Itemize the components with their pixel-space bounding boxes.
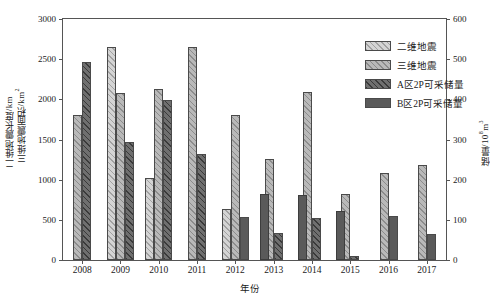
x-tick — [389, 260, 390, 264]
bar-group: 2009 — [102, 19, 138, 260]
legend-swatch-hatch-light — [365, 41, 391, 51]
x-tick-label: 2014 — [302, 265, 321, 275]
legend-label: A区2P可采储量 — [397, 77, 464, 91]
y-tick-label-left: 0 — [52, 255, 57, 265]
bar-B区2P可采储量 — [336, 211, 345, 260]
y-axis-right-exponent: 8 — [478, 131, 484, 134]
legend-item: B区2P可采储量 — [365, 96, 464, 110]
x-tick — [197, 260, 198, 264]
bar-二维地震 — [222, 209, 231, 260]
y-axis-right-title: 储量/108m3 — [478, 120, 491, 166]
bar-A区2P可采储量 — [312, 218, 321, 260]
legend-item: 二维地震 — [365, 39, 464, 53]
y-tick-label-left: 3000 — [38, 14, 56, 24]
legend-label: 三维地震 — [397, 58, 437, 72]
bar-group: 2014 — [294, 19, 330, 260]
bar-B区2P可采储量 — [427, 234, 436, 260]
y-axis-right-unit-exponent: 3 — [478, 120, 484, 123]
bar-三维地震 — [154, 89, 163, 260]
bar-group: 2015 — [332, 19, 368, 260]
y-tick-left — [59, 59, 63, 60]
y-tick-right — [446, 260, 450, 261]
x-tick — [274, 260, 275, 264]
x-tick — [350, 260, 351, 264]
y-tick-right — [446, 140, 450, 141]
x-tick-label: 2013 — [264, 265, 283, 275]
x-tick-label: 2011 — [188, 265, 207, 275]
y-tick-label-right: 600 — [453, 14, 467, 24]
bar-A区2P可采储量 — [197, 154, 206, 260]
bar-group: 2011 — [179, 19, 215, 260]
plot-area: 2008200920102011201220132014201520162017… — [62, 18, 447, 261]
x-tick-label: 2015 — [341, 265, 360, 275]
y-tick-label-right: 200 — [453, 175, 467, 185]
y-tick-left — [59, 19, 63, 20]
bar-三维地震 — [231, 115, 240, 260]
legend-label: B区2P可采储量 — [397, 96, 463, 110]
bar-A区2P可采储量 — [163, 100, 172, 260]
bar-A区2P可采储量 — [350, 256, 359, 260]
bar-B区2P可采储量 — [260, 194, 269, 260]
y-tick-left — [59, 180, 63, 181]
legend-swatch-hatch-medium — [365, 60, 391, 70]
y-tick-label-right: 300 — [453, 135, 467, 145]
bar-三维地震 — [418, 165, 427, 260]
y-tick-right — [446, 220, 450, 221]
y-tick-label-left: 2500 — [38, 54, 56, 64]
bar-group: 2012 — [217, 19, 253, 260]
chart-root: 二维地震长度/km 三维地震面积/km2 储量/108m3 年份 2008200… — [0, 0, 500, 299]
x-tick — [312, 260, 313, 264]
x-tick-label: 2010 — [149, 265, 168, 275]
y-tick-label-left: 500 — [43, 215, 57, 225]
legend-label: 二维地震 — [397, 39, 437, 53]
y-tick-label-left: 2000 — [38, 94, 56, 104]
x-tick-label: 2008 — [73, 265, 92, 275]
bar-三维地震 — [73, 115, 82, 260]
y-tick-right — [446, 19, 450, 20]
y-tick-label-left: 1000 — [38, 175, 56, 185]
y-tick-label-right: 0 — [453, 255, 458, 265]
y-axis-left-exponent: 2 — [14, 88, 20, 91]
bar-A区2P可采储量 — [274, 233, 283, 260]
legend: 二维地震三维地震A区2P可采储量B区2P可采储量 — [365, 39, 464, 110]
bar-二维地震 — [145, 178, 154, 260]
x-tick — [82, 260, 83, 264]
y-tick-left — [59, 140, 63, 141]
x-tick-label: 2016 — [379, 265, 398, 275]
y-tick-left — [59, 99, 63, 100]
bar-group: 2008 — [64, 19, 100, 260]
legend-item: 三维地震 — [365, 58, 464, 72]
bar-group: 2013 — [256, 19, 292, 260]
x-tick-label: 2012 — [226, 265, 245, 275]
y-tick-label-right: 100 — [453, 215, 467, 225]
x-tick-label: 2017 — [417, 265, 436, 275]
legend-swatch-hatch-dark — [365, 79, 391, 89]
x-tick — [120, 260, 121, 264]
x-tick — [427, 260, 428, 264]
bar-A区2P可采储量 — [82, 62, 91, 260]
bar-A区2P可采储量 — [125, 142, 134, 260]
x-tick-label: 2009 — [111, 265, 130, 275]
y-tick-left — [59, 260, 63, 261]
bar-三维地震 — [380, 173, 389, 260]
x-tick — [159, 260, 160, 264]
legend-swatch-solid-dark — [365, 98, 391, 108]
bar-B区2P可采储量 — [298, 195, 307, 260]
bar-二维地震 — [107, 47, 116, 260]
bar-B区2P可采储量 — [389, 216, 398, 260]
bar-group: 2010 — [141, 19, 177, 260]
y-tick-label-left: 1500 — [38, 135, 56, 145]
y-tick-left — [59, 220, 63, 221]
x-tick — [235, 260, 236, 264]
y-tick-right — [446, 180, 450, 181]
y-axis-left-title-secondary: 三维地震面积/km2 — [14, 88, 27, 163]
bar-三维地震 — [116, 93, 125, 260]
bar-B区2P可采储量 — [240, 217, 249, 260]
legend-item: A区2P可采储量 — [365, 77, 464, 91]
x-axis-title: 年份 — [0, 281, 500, 295]
bar-三维地震 — [188, 47, 197, 260]
